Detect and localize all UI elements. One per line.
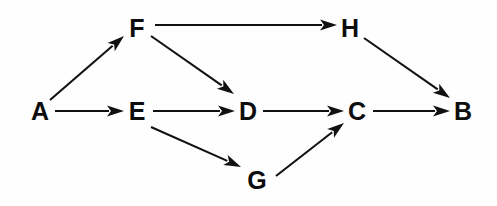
graph-edge-c-to-b xyxy=(373,106,450,117)
graph-edge-g-to-c xyxy=(276,123,344,176)
graph-edge-a-to-e xyxy=(55,106,124,117)
graph-edge-a-to-f xyxy=(50,36,124,100)
graph-edge-d-to-c xyxy=(263,106,344,117)
graph-edge-f-to-h xyxy=(155,20,337,31)
graph-node-h[interactable]: H xyxy=(341,16,359,41)
arrowhead-icon xyxy=(320,20,337,31)
arrowhead-icon xyxy=(218,106,235,117)
graph-node-e[interactable]: E xyxy=(129,99,146,124)
graph-node-a[interactable]: A xyxy=(31,99,49,124)
arrowhead-icon xyxy=(433,106,450,117)
graph-edge-e-to-d xyxy=(153,106,235,117)
graph-edge-h-to-b xyxy=(364,38,450,98)
arrowhead-icon xyxy=(327,106,344,117)
directed-graph-figure: AFEDGHCB xyxy=(0,0,497,206)
graph-node-g[interactable]: G xyxy=(247,168,266,193)
arrowhead-icon xyxy=(107,106,124,117)
arrowhead-icon xyxy=(217,80,234,94)
graph-node-d[interactable]: D xyxy=(239,99,257,124)
graph-node-c[interactable]: C xyxy=(348,99,366,124)
graph-edge-e-to-g xyxy=(151,127,241,167)
arrowhead-icon xyxy=(433,84,450,98)
graph-node-f[interactable]: F xyxy=(129,16,144,41)
graph-edge-f-to-d xyxy=(151,36,234,94)
graph-node-b[interactable]: B xyxy=(454,99,472,124)
arrowhead-icon xyxy=(327,123,344,138)
